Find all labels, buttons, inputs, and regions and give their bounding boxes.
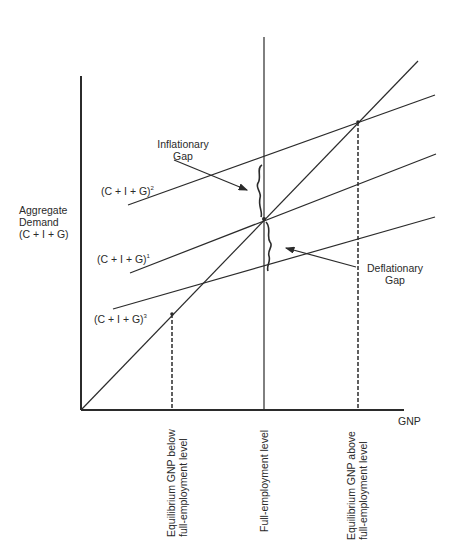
cig1-label: (C + I + G)1 — [97, 250, 150, 265]
deflationary-gap-arrow — [286, 248, 356, 267]
forty-five-degree-line — [81, 61, 418, 410]
y-axis-label: Aggregate Demand (C + I + G) — [19, 204, 69, 240]
inflationary-gap-label: Inflationary Gap — [143, 138, 223, 162]
marker-full-label: Full-employment level — [258, 430, 270, 532]
cig1-line — [130, 154, 436, 273]
y-axis-label-line3: (C + I + G) — [19, 228, 69, 240]
marker-below-label: Equilibrium GNP below full-employment le… — [165, 429, 189, 537]
y-axis-label-line1: Aggregate — [19, 204, 69, 216]
x-axis-label: GNP — [398, 415, 421, 427]
inflationary-gap-arrow — [174, 160, 247, 190]
y-axis-label-line2: Demand — [19, 216, 69, 228]
deflationary-gap-label: Deflationary Gap — [358, 262, 432, 286]
marker-above-label: Equilibrium GNP above full-employment le… — [345, 431, 369, 540]
cig2-label: (C + I + G)2 — [101, 182, 154, 197]
cig3-label: (C + I + G)3 — [94, 310, 147, 325]
inflationary-gap-brace — [257, 165, 262, 217]
